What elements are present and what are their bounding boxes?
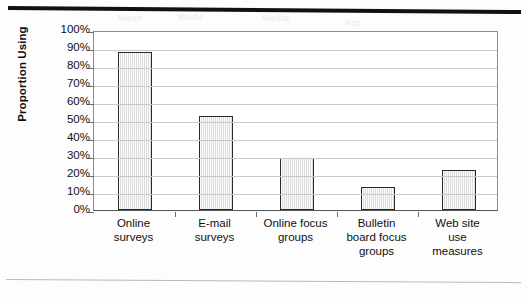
gridline xyxy=(94,104,497,105)
y-tick-label: 80% xyxy=(50,60,90,72)
x-tick-label-line: Bulletin xyxy=(336,216,417,230)
x-tick-label-line: Web site xyxy=(417,216,498,230)
y-tick-mark xyxy=(89,140,94,141)
y-tick-label: 100% xyxy=(50,24,90,36)
x-tick-label-line: board focus xyxy=(336,230,417,244)
gridline xyxy=(94,86,497,87)
plot-area xyxy=(93,31,498,211)
y-tick-mark xyxy=(89,32,94,33)
scanned-page-background: Mean Mode Media Pct Proportion Using 100… xyxy=(0,0,527,297)
y-tick-label: 10% xyxy=(50,186,90,198)
x-tick-label-line: surveys xyxy=(93,230,174,244)
y-tick-mark xyxy=(89,176,94,177)
x-tick-label-line: groups xyxy=(336,244,417,258)
y-tick-label: 60% xyxy=(50,96,90,108)
bar-series xyxy=(94,32,497,210)
bar xyxy=(199,116,233,210)
y-tick-label: 70% xyxy=(50,78,90,90)
x-tick-label-line: E-mail xyxy=(174,216,255,230)
x-tick-label-line: use xyxy=(417,230,498,244)
gridline xyxy=(94,68,497,69)
y-tick-mark xyxy=(89,68,94,69)
y-tick-mark xyxy=(89,212,94,213)
x-tick-label-line: Online focus xyxy=(255,216,336,230)
gridline xyxy=(94,194,497,195)
bar xyxy=(280,158,314,210)
x-tick-label: Web siteusemeasures xyxy=(417,216,498,258)
x-tick-label-line: groups xyxy=(255,230,336,244)
x-tick-label: Online focusgroups xyxy=(255,216,336,244)
bar-chart: Proportion Using 100%90%80%70%60%50%40%3… xyxy=(0,0,527,297)
gridline xyxy=(94,158,497,159)
gridline xyxy=(94,50,497,51)
y-tick-mark xyxy=(89,122,94,123)
bar xyxy=(361,187,395,210)
y-tick-mark xyxy=(89,86,94,87)
y-tick-label: 50% xyxy=(50,114,90,126)
y-axis-title: Proportion Using xyxy=(16,14,28,134)
gridline xyxy=(94,176,497,177)
x-tick-label-line: surveys xyxy=(174,230,255,244)
x-tick-label: Bulletinboard focusgroups xyxy=(336,216,417,258)
gridline xyxy=(94,122,497,123)
x-tick-label-line: Online xyxy=(93,216,174,230)
y-tick-mark xyxy=(89,104,94,105)
x-tick-label: E-mailsurveys xyxy=(174,216,255,244)
x-tick-label: Onlinesurveys xyxy=(93,216,174,244)
y-tick-label: 30% xyxy=(50,150,90,162)
gridline xyxy=(94,140,497,141)
y-tick-label: 40% xyxy=(50,132,90,144)
y-tick-label: 20% xyxy=(50,168,90,180)
y-tick-mark xyxy=(89,50,94,51)
y-tick-mark xyxy=(89,194,94,195)
y-tick-mark xyxy=(89,158,94,159)
y-tick-label: 90% xyxy=(50,42,90,54)
x-tick-label-line: measures xyxy=(417,244,498,258)
bar xyxy=(118,52,152,210)
x-axis-tick-labels: OnlinesurveysE-mailsurveysOnline focusgr… xyxy=(93,216,498,292)
y-axis-tick-labels: 100%90%80%70%60%50%40%30%20%10%0% xyxy=(48,0,90,297)
y-tick-label: 0% xyxy=(50,204,90,216)
